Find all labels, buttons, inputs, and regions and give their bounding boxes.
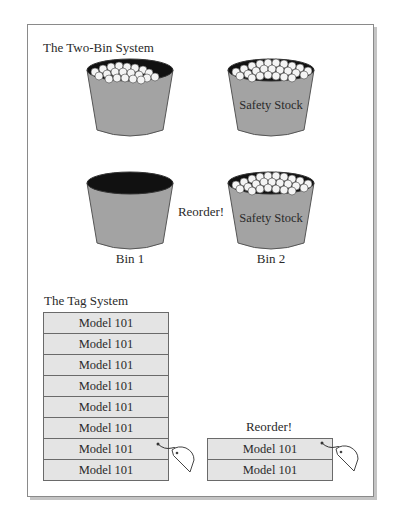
bin-2-caption: Bin 2 xyxy=(226,251,316,267)
top-bin-2: Safety Stock xyxy=(226,58,316,142)
stack-row: Model 101 xyxy=(44,355,168,376)
stack-row: Model 101 xyxy=(44,334,168,355)
two-bin-system-title: The Two-Bin System xyxy=(43,40,154,56)
reorder-tag-icon xyxy=(156,442,198,478)
reorder-tag-icon xyxy=(320,441,362,477)
tag-stack-low: Model 101 Model 101 xyxy=(207,438,333,481)
tag-stack-full: Model 101 Model 101 Model 101 Model 101 … xyxy=(43,312,169,481)
stack-row: Model 101 xyxy=(44,376,168,397)
stack-row: Model 101 xyxy=(44,313,168,334)
bottom-bin-1 xyxy=(85,171,175,255)
tag-system-title: The Tag System xyxy=(44,293,128,309)
stack-row-tagged: Model 101 xyxy=(44,439,168,460)
stack-row: Model 101 xyxy=(208,460,332,481)
top-bin-1 xyxy=(85,58,175,142)
stack-row: Model 101 xyxy=(44,418,168,439)
tag-reorder-label: Reorder! xyxy=(207,419,331,435)
bottom-bin-2: Safety Stock xyxy=(226,171,316,255)
safety-stock-label: Safety Stock xyxy=(226,98,316,113)
bin-empty-icon xyxy=(85,171,175,255)
stack-row-tagged: Model 101 xyxy=(208,439,332,460)
safety-stock-label: Safety Stock xyxy=(226,211,316,226)
bin-partial-icon xyxy=(85,58,175,142)
stack-row: Model 101 xyxy=(44,397,168,418)
stack-row: Model 101 xyxy=(44,460,168,481)
bin-1-caption: Bin 1 xyxy=(85,251,175,267)
two-bin-reorder-label: Reorder! xyxy=(176,204,226,220)
